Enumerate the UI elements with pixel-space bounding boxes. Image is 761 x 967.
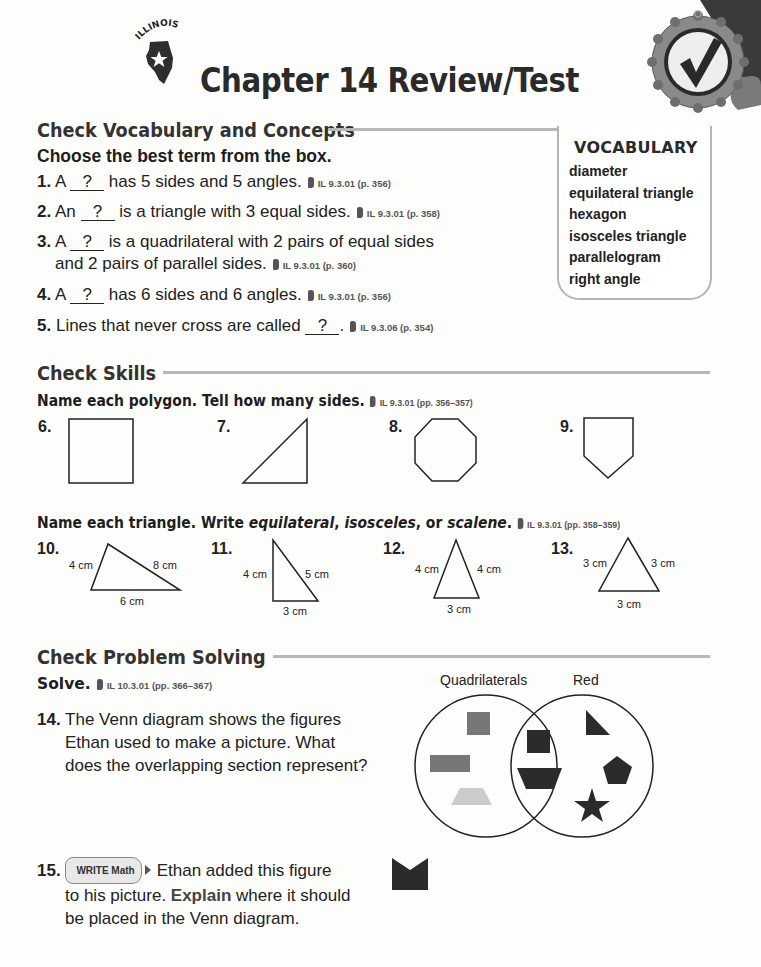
illinois-label: ILLINOIS xyxy=(133,18,180,42)
standard-ref: IL 9.3.01 (p. 360) xyxy=(273,260,356,271)
vocab-term: parallelogram xyxy=(569,247,710,269)
side-label: 3 cm xyxy=(283,605,307,617)
question-5: 5. Lines that never cross are called ?.I… xyxy=(37,315,433,339)
arrow-right-icon xyxy=(145,865,151,875)
standard-ref: IL 9.3.01 (pp. 356–357) xyxy=(370,397,472,408)
red-triangle-shape xyxy=(586,710,610,735)
vocab-term: hexagon xyxy=(569,204,710,226)
illinois-mark-icon xyxy=(273,259,279,270)
section-title-problem-solving: Check Problem Solving xyxy=(37,646,266,668)
side-label: 3 cm xyxy=(447,603,471,615)
question-2: 2. An ? is a triangle with 3 equal sides… xyxy=(37,201,440,225)
svg-text:ILLINOIS: ILLINOIS xyxy=(133,18,180,42)
standard-ref: IL 9.3.01 (pp. 358–359) xyxy=(518,519,620,530)
question-14: 14. The Venn diagram shows the figures E… xyxy=(37,708,367,777)
illinois-mark-icon xyxy=(308,177,314,188)
vocabulary-title: VOCABULARY xyxy=(574,138,710,157)
answer-blank[interactable]: ? xyxy=(70,174,104,191)
red-pentagon-shape xyxy=(603,756,632,784)
side-label: 4 cm xyxy=(477,563,501,575)
red-square-shape xyxy=(527,730,550,753)
illinois-logo-icon: ILLINOIS xyxy=(135,18,195,88)
side-label: 4 cm xyxy=(243,568,267,580)
problem-number: 7. xyxy=(217,418,230,436)
checkmark-medal-icon xyxy=(640,0,761,130)
side-label: 6 cm xyxy=(120,595,144,607)
vocab-term: diameter xyxy=(569,161,710,183)
octagon-shape xyxy=(414,418,480,484)
question-3: 3. A ? is a quadrilateral with 2 pairs o… xyxy=(37,231,434,277)
illinois-mark-icon xyxy=(357,207,363,218)
problem-number: 11. xyxy=(211,540,232,558)
standard-ref: IL 9.3.06 (p. 354) xyxy=(350,322,433,333)
question-15: 15. WRITE MathEthan added this figure to… xyxy=(37,857,350,930)
section-divider xyxy=(163,371,710,374)
side-label: 5 cm xyxy=(305,568,329,580)
answer-blank[interactable]: ? xyxy=(305,318,339,335)
gray-rectangle-shape xyxy=(430,755,470,772)
red-trapezoid-shape xyxy=(517,768,562,789)
page-title: Chapter 14 Review/Test xyxy=(200,60,579,100)
standard-ref: IL 10.3.01 (pp. 366–367) xyxy=(97,680,212,691)
illinois-mark-icon xyxy=(518,518,524,529)
illinois-mark-icon xyxy=(370,396,376,407)
standard-ref: IL 9.3.01 (p. 356) xyxy=(308,178,391,189)
write-math-badge: WRITE Math xyxy=(65,857,141,884)
triangle-instruction: Name each triangle. Write equilateral, i… xyxy=(37,514,620,532)
section-title-vocabulary: Check Vocabulary and Concepts xyxy=(37,119,355,141)
illinois-mark-icon xyxy=(350,321,356,332)
problem-number: 13. xyxy=(551,540,573,558)
light-trapezoid-shape xyxy=(451,788,492,805)
standard-ref: IL 9.3.01 (p. 358) xyxy=(357,208,440,219)
illinois-mark-icon xyxy=(97,679,103,690)
solve-instruction: Solve.IL 10.3.01 (pp. 366–367) xyxy=(37,675,212,693)
rectangle-shape xyxy=(68,418,136,486)
problem-number: 12. xyxy=(383,540,405,558)
right-triangle-shape xyxy=(242,418,312,486)
illinois-mark-icon xyxy=(308,290,314,301)
added-figure-shape xyxy=(392,858,428,890)
question-1: 1. A ? has 5 sides and 5 angles.IL 9.3.0… xyxy=(37,171,391,195)
side-label: 8 cm xyxy=(153,559,177,571)
polygon-instruction: Name each polygon. Tell how many sides.I… xyxy=(37,392,473,410)
side-label: 4 cm xyxy=(69,559,93,571)
venn-label-quadrilaterals: Quadrilaterals xyxy=(440,672,527,688)
vocab-term: isosceles triangle xyxy=(569,226,710,248)
problem-number: 6. xyxy=(38,418,51,436)
answer-blank[interactable]: ? xyxy=(70,234,104,251)
gray-square-shape xyxy=(467,712,490,735)
pentagon-shape xyxy=(583,417,637,481)
venn-diagram xyxy=(410,690,660,840)
side-label: 4 cm xyxy=(415,563,439,575)
answer-blank[interactable]: ? xyxy=(81,204,115,221)
problem-number: 8. xyxy=(389,418,402,436)
red-star-shape xyxy=(574,788,610,822)
side-label: 3 cm xyxy=(583,557,607,569)
venn-label-red: Red xyxy=(573,672,599,688)
problem-number: 10. xyxy=(37,540,59,558)
vocab-term: right angle xyxy=(569,269,710,291)
question-4: 4. A ? has 6 sides and 6 angles.IL 9.3.0… xyxy=(37,284,391,308)
answer-blank[interactable]: ? xyxy=(70,287,104,304)
vocab-term: equilateral triangle xyxy=(569,183,710,205)
problem-number: 9. xyxy=(560,418,573,436)
side-label: 3 cm xyxy=(651,557,675,569)
section-title-skills: Check Skills xyxy=(37,362,156,384)
isosceles-triangle-shape xyxy=(433,539,481,601)
side-label: 3 cm xyxy=(617,598,641,610)
vocabulary-box: VOCABULARY diameter equilateral triangle… xyxy=(557,126,712,300)
standard-ref: IL 9.3.01 (p. 356) xyxy=(308,291,391,302)
section-divider xyxy=(273,655,710,658)
vocab-instruction: Choose the best term from the box. xyxy=(37,146,332,167)
